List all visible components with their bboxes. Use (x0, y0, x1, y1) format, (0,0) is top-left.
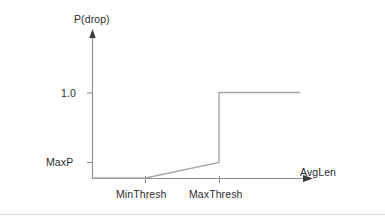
x-axis-label: AvgLen (300, 166, 336, 178)
y-axis-label: P(drop) (74, 13, 110, 25)
y-axis-arrowhead-icon (89, 29, 95, 38)
x-tick-label-maxthresh: MaxThresh (189, 188, 242, 200)
bottom-divider (0, 214, 385, 215)
y-tick-label-one: 1.0 (61, 87, 76, 99)
drop-probability-curve (94, 93, 300, 179)
x-tick-label-minthresh: MinThresh (116, 188, 167, 200)
red-drop-probability-figure: P(drop) 1.0 MaxP MinThresh MaxThresh Avg… (0, 0, 385, 222)
y-tick-label-maxp: MaxP (46, 156, 73, 168)
